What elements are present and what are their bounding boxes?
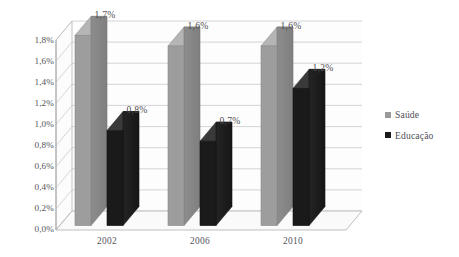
value-label-educacao-2006: 0,7% (220, 115, 241, 126)
chart-legend: Saúde Educação (385, 110, 459, 151)
value-label-saude-2002: 1,7% (95, 9, 116, 20)
legend-item-educacao[interactable]: Educação (385, 131, 459, 141)
legend-label-educacao: Educação (395, 131, 433, 141)
legend-swatch-educacao-icon (385, 132, 391, 138)
value-label-saude-2010: 1,6% (281, 20, 302, 31)
value-label-educacao-2002: 0,8% (127, 104, 148, 115)
value-label-saude-2006: 1,6% (188, 20, 209, 31)
legend-item-saude[interactable]: Saúde (385, 110, 459, 120)
legend-label-saude: Saúde (395, 110, 419, 120)
value-label-educacao-2010: 1,2% (313, 62, 334, 73)
chart-container: 1,8% 1,6% 1,4% 1,2% 1,0% 0,8% 0,6% 0,4% … (0, 0, 459, 257)
legend-swatch-saude-icon (385, 112, 391, 118)
